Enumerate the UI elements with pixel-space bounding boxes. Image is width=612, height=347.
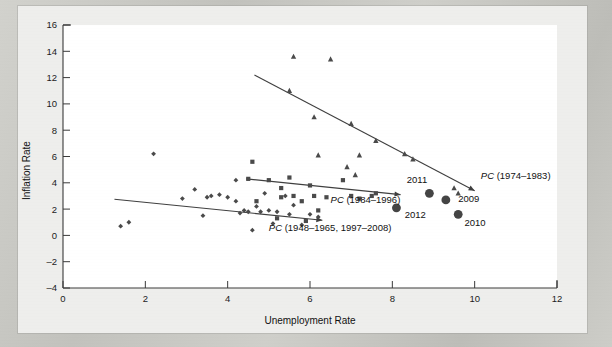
marker-square: [312, 194, 316, 198]
marker-square: [300, 199, 304, 203]
annotation-label: PC (1948–1965, 1997–2008): [269, 222, 392, 233]
y-tick-label: 6: [52, 151, 57, 162]
x-axis-title: Unemployment Rate: [264, 315, 356, 326]
y-tick-label: 14: [46, 46, 57, 57]
marker-square: [279, 195, 283, 199]
marker-square: [341, 178, 345, 182]
marker-circle-year: [441, 195, 450, 204]
y-axis-title: Inflation Rate: [21, 141, 32, 200]
marker-circle-year: [425, 189, 434, 198]
x-tick-label: 10: [469, 293, 480, 304]
marker-square: [324, 195, 328, 199]
annotation-label: 2010: [464, 217, 485, 228]
marker-square: [291, 194, 295, 198]
x-tick-label: 12: [552, 293, 563, 304]
y-tick-label: 10: [46, 98, 57, 109]
y-tick-label: –4: [46, 282, 57, 293]
y-tick-label: 16: [46, 19, 57, 30]
annotation-label: PC (1974–1983): [481, 170, 551, 181]
y-tick-label: 12: [46, 72, 57, 83]
plot-area-background: [63, 25, 557, 288]
x-tick-label: 2: [143, 293, 148, 304]
y-tick-label: 4: [52, 177, 57, 188]
marker-square: [254, 199, 258, 203]
annotation-label: PC (1984–1996): [331, 194, 401, 205]
marker-square: [308, 183, 312, 187]
x-tick-label: 8: [390, 293, 395, 304]
marker-square: [279, 186, 283, 190]
annotation-label: 2009: [458, 193, 479, 204]
annotation-label: 2011: [407, 174, 427, 185]
marker-square: [246, 177, 250, 181]
phillips-curve-scatter-chart: –4–20246810121416 024681012 Inflation Ra…: [0, 0, 612, 347]
x-tick-label: 0: [60, 293, 65, 304]
marker-square: [287, 175, 291, 179]
marker-square: [267, 178, 271, 182]
x-tick-label: 6: [307, 293, 312, 304]
x-tick-label: 4: [225, 293, 230, 304]
y-tick-label: 8: [52, 125, 57, 136]
marker-circle-year: [454, 210, 463, 219]
marker-square: [275, 216, 279, 220]
y-tick-label: 0: [52, 230, 57, 241]
screenshot-root: –4–20246810121416 024681012 Inflation Ra…: [0, 0, 612, 347]
annotation-label: 2012: [405, 209, 426, 220]
marker-square: [250, 160, 254, 164]
y-tick-label: –2: [46, 256, 57, 267]
y-tick-label: 2: [52, 204, 57, 215]
marker-square: [316, 208, 320, 212]
